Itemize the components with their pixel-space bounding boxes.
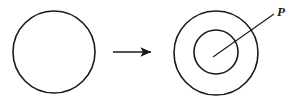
figure-canvas: P [0,0,301,107]
point-p-label: P [277,4,286,19]
figure-container: P [0,0,301,107]
outer-circle [174,11,258,95]
inner-circle [194,30,238,74]
plain-circle [13,11,95,93]
